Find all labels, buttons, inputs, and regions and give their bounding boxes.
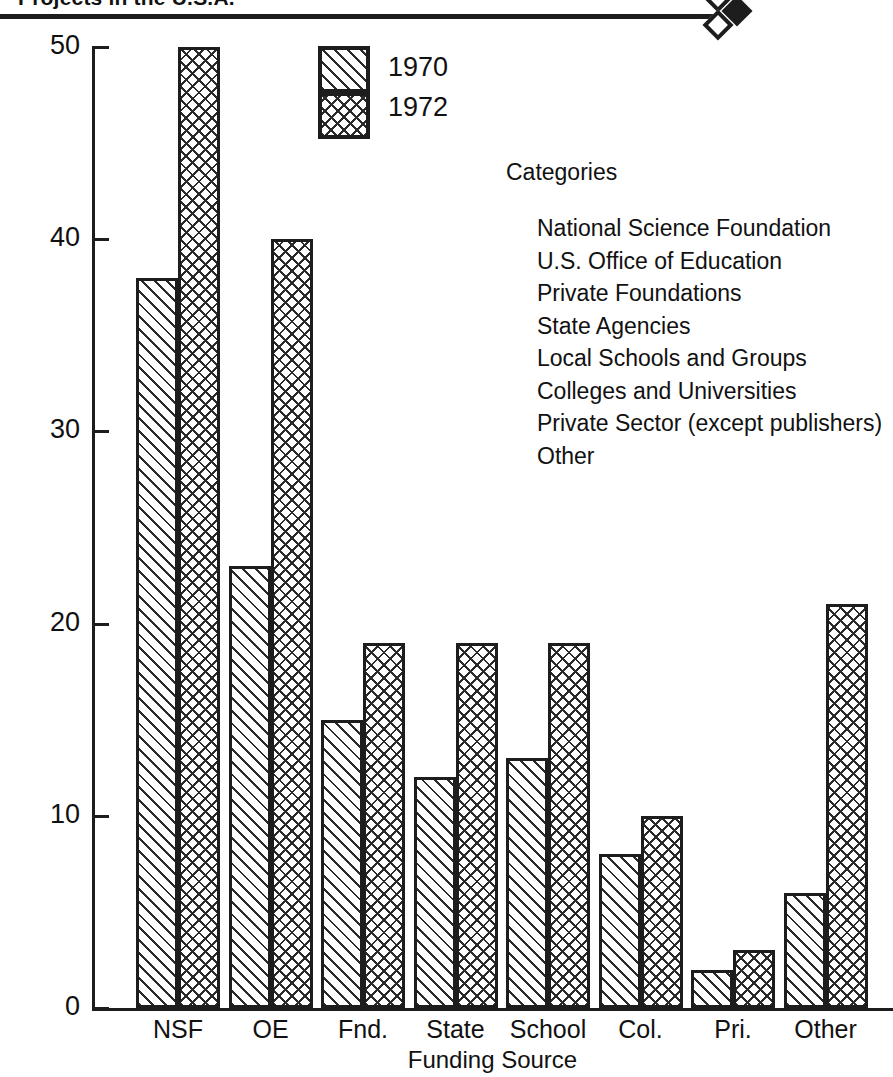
bar-col-1972 — [641, 816, 683, 1008]
category-list-item: Other — [537, 440, 886, 473]
categories-heading: Categories — [506, 159, 886, 186]
category-list-item: U.S. Office of Education — [537, 245, 886, 278]
bar-fnd-1972 — [363, 643, 405, 1008]
category-list-item: Private Foundations — [537, 277, 886, 310]
bar-other-1970 — [784, 893, 826, 1008]
category-list-item: Private Sector (except publishers) — [537, 407, 886, 440]
x-axis — [92, 1008, 893, 1011]
legend-label-1970: 1970 — [388, 52, 448, 83]
legend-swatch-1972 — [318, 92, 370, 139]
bar-state-1970 — [414, 777, 456, 1008]
y-axis-tick-label: 40 — [20, 224, 80, 251]
bar-fnd-1970 — [321, 720, 363, 1008]
category-list-item: State Agencies — [537, 310, 886, 343]
category-list-item: National Science Foundation — [537, 212, 886, 245]
bar-other-1972 — [826, 604, 868, 1008]
header-divider — [0, 14, 719, 19]
x-axis-title: Funding Source — [92, 1046, 893, 1074]
bar-school-1970 — [506, 758, 548, 1008]
y-axis-tick-labels: 01020304050 — [10, 46, 80, 1011]
x-axis-tick-label: Other — [766, 1015, 886, 1044]
legend-label-1972: 1972 — [388, 92, 448, 123]
y-axis-tick-label: 20 — [20, 609, 80, 636]
legend — [318, 46, 370, 140]
bar-state-1972 — [456, 643, 498, 1008]
categories-panel: Categories National Science FoundationU.… — [506, 159, 886, 472]
bar-oe-1970 — [229, 566, 271, 1008]
category-list-item: Local Schools and Groups — [537, 342, 886, 375]
category-list-item: Colleges and Universities — [537, 375, 886, 408]
chart-page: Projects in the U.S.A. 01020304050 Numbe… — [0, 0, 893, 1077]
page-title: Projects in the U.S.A. — [18, 0, 235, 10]
bar-oe-1972 — [271, 239, 313, 1008]
bar-nsf-1970 — [136, 278, 178, 1008]
y-axis-tick-label: 30 — [20, 416, 80, 443]
bar-pri-1972 — [733, 950, 775, 1008]
y-axis-tick-label: 50 — [20, 32, 80, 59]
bar-nsf-1972 — [178, 47, 220, 1008]
bar-col-1970 — [599, 854, 641, 1008]
legend-swatch-1970 — [318, 46, 370, 93]
bar-school-1972 — [548, 643, 590, 1008]
y-axis-tick-label: 10 — [20, 801, 80, 828]
y-axis-tick-label: 0 — [20, 993, 80, 1020]
categories-list: National Science FoundationU.S. Office o… — [506, 212, 886, 472]
bar-pri-1970 — [691, 970, 733, 1008]
